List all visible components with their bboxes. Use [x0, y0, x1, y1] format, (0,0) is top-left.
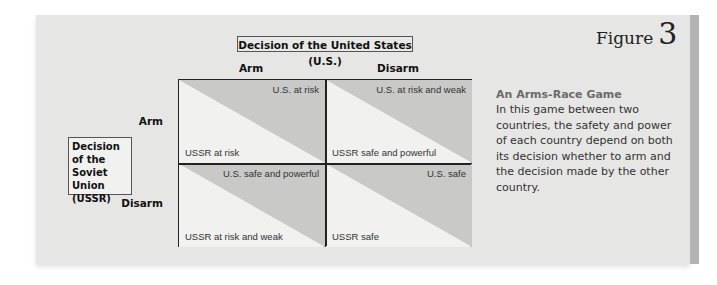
us-outcome: U.S. at risk and weak	[376, 84, 466, 95]
cell-disarm-arm: U.S. safe and powerful USSR at risk and …	[179, 164, 325, 247]
ussr-decision-header: Decision of the Soviet Union (USSR)	[68, 137, 132, 195]
ussr-outcome: USSR safe and powerful	[332, 147, 436, 158]
cell-arm-disarm: U.S. at risk and weak USSR safe and powe…	[326, 80, 472, 163]
us-decision-header: Decision of the United States (U.S.)	[237, 36, 413, 52]
cell-arm-arm: U.S. at risk USSR at risk	[179, 80, 325, 163]
us-outcome: U.S. at risk	[273, 84, 319, 95]
ussr-header-line: (USSR)	[72, 192, 128, 205]
ussr-outcome: USSR at risk	[185, 147, 239, 158]
caption-body: In this game between two countries, the …	[496, 102, 681, 195]
figure-word: Figure	[596, 28, 653, 48]
figure-number: 3	[658, 16, 677, 51]
grid-divider-horizontal	[179, 163, 471, 165]
ussr-outcome: USSR at risk and weak	[185, 231, 283, 242]
payoff-matrix: U.S. at risk USSR at risk U.S. at risk a…	[178, 79, 472, 247]
caption-title: An Arms-Race Game	[496, 88, 622, 101]
row-label-arm: Arm	[83, 115, 163, 127]
column-label-arm: Arm	[178, 62, 324, 74]
side-band	[690, 15, 699, 264]
ussr-outcome: USSR safe	[332, 231, 379, 242]
cell-disarm-disarm: U.S. safe USSR safe	[326, 164, 472, 247]
ussr-header-line: of the	[72, 153, 128, 166]
ussr-header-line: Soviet Union	[72, 166, 128, 192]
column-label-disarm: Disarm	[325, 62, 471, 74]
us-outcome: U.S. safe and powerful	[223, 168, 319, 179]
us-outcome: U.S. safe	[427, 168, 466, 179]
ussr-header-line: Decision	[72, 140, 128, 153]
figure-label: Figure 3	[596, 20, 677, 48]
